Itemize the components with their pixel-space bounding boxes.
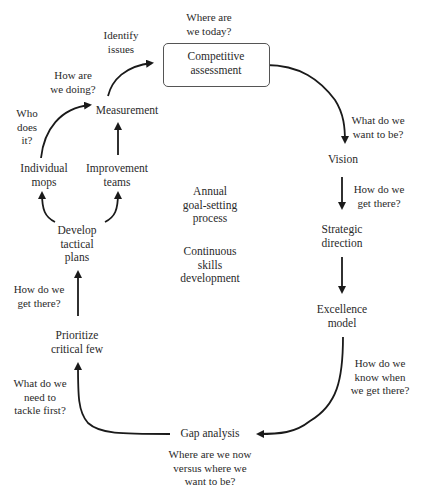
center-continuous-skills: Continuous skills development bbox=[180, 245, 239, 286]
node-measurement: Measurement bbox=[96, 104, 159, 118]
center-annual-process: Annual goal-setting process bbox=[183, 185, 237, 226]
question-tackle-first: What do we need to tackle first? bbox=[13, 377, 66, 418]
node-prioritize: Prioritize critical few bbox=[51, 329, 103, 356]
node-improvement-teams: Improvement teams bbox=[86, 162, 148, 189]
arrow-measurement-to-assessment bbox=[108, 63, 152, 96]
node-excellence-model: Excellence model bbox=[317, 303, 367, 330]
node-develop-plans: Develop tactical plans bbox=[58, 224, 97, 265]
arrow-develop-to-mops bbox=[42, 193, 55, 222]
question-identify-issues: Identify issues bbox=[104, 29, 139, 56]
question-how-get-there-right: How do we get there? bbox=[354, 183, 405, 210]
arrow-assessment-to-vision bbox=[266, 65, 345, 142]
question-how-get-there-left: How do we get there? bbox=[14, 283, 65, 310]
question-how-are-we-doing: How are we doing? bbox=[50, 69, 96, 96]
arrow-excellence-to-gap bbox=[258, 337, 343, 434]
question-want-to-be: What do we want to be? bbox=[351, 114, 404, 141]
arrow-gap-to-prioritize bbox=[78, 364, 170, 434]
node-strategic-direction: Strategic direction bbox=[322, 223, 363, 250]
arrow-mops-to-measurement bbox=[41, 105, 90, 158]
node-individual-mops: Individual mops bbox=[20, 162, 67, 189]
question-know-when: How do we know when we get there? bbox=[351, 357, 410, 398]
node-competitive-assessment: Competitive assessment bbox=[188, 50, 245, 77]
node-gap-analysis: Gap analysis bbox=[180, 427, 239, 441]
question-who-does-it: Who does it? bbox=[16, 107, 37, 148]
node-vision: Vision bbox=[328, 153, 358, 167]
arrow-develop-to-teams bbox=[105, 193, 118, 222]
question-where-now-vs: Where are we now versus where we want to… bbox=[169, 448, 252, 489]
question-where-today: Where are we today? bbox=[186, 11, 232, 38]
